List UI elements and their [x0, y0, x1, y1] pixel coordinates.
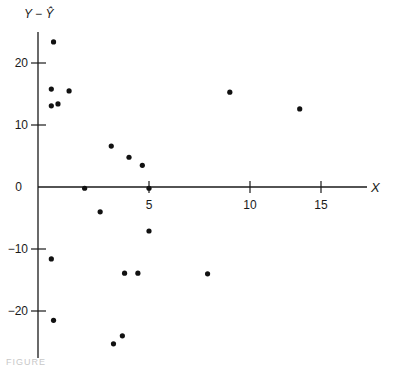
- data-point: [98, 209, 103, 214]
- data-point: [111, 341, 116, 346]
- x-axis-label: X: [370, 180, 381, 195]
- data-point: [55, 101, 60, 106]
- y-tick-label: 10: [15, 118, 29, 132]
- x-tick-label: 5: [146, 198, 153, 212]
- y-tick-label: 0: [15, 180, 22, 194]
- data-point: [227, 90, 232, 95]
- data-point: [140, 163, 145, 168]
- data-point: [297, 106, 302, 111]
- x-tick-label: 15: [314, 198, 328, 212]
- data-point: [126, 155, 131, 160]
- data-point: [146, 228, 151, 233]
- data-point: [120, 333, 125, 338]
- figure-caption: FIGURE: [6, 357, 276, 367]
- x-tick-label: 10: [243, 198, 257, 212]
- y-axis-label: Y − Ŷ: [24, 6, 54, 21]
- data-point: [49, 256, 54, 261]
- y-tick-label: 20: [15, 56, 29, 70]
- data-point: [49, 86, 54, 91]
- data-point: [51, 318, 56, 323]
- data-point: [205, 271, 210, 276]
- data-point: [146, 186, 151, 191]
- data-point: [109, 143, 114, 148]
- scatter-plot: 51015 20100−10−20 Y − Ŷ X: [0, 0, 393, 360]
- data-point: [49, 103, 54, 108]
- data-point: [122, 271, 127, 276]
- data-point: [66, 88, 71, 93]
- data-point: [51, 39, 56, 44]
- data-point: [82, 186, 87, 191]
- x-ticks: 51015: [146, 181, 328, 212]
- data-points: [49, 39, 303, 346]
- y-tick-label: −10: [8, 242, 29, 256]
- data-point: [135, 271, 140, 276]
- y-tick-label: −20: [8, 304, 29, 318]
